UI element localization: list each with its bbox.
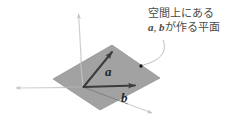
annotation-suffix: が作る平面 [165, 21, 220, 33]
callout-dot [139, 64, 142, 67]
annotation-line-1: 空間上にある [148, 6, 244, 20]
annotation-line-2: a, bが作る平面 [148, 20, 244, 34]
plane-annotation: 空間上にある a, bが作る平面 [148, 6, 244, 34]
vector-b-label: b [121, 90, 128, 105]
vector-a-label: a [105, 64, 112, 79]
callout-leader-line [143, 40, 164, 65]
vector-plane-figure: a b 空間上にある a, bが作る平面 [0, 0, 246, 127]
